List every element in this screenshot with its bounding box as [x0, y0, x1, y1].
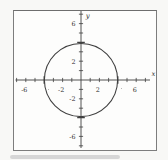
y-tick-label: 2 [71, 58, 75, 66]
y-tick-label: -2 [69, 95, 75, 103]
y-axis-label: y [85, 12, 90, 20]
scan-speck [121, 88, 122, 89]
x-tick-label: -6 [21, 86, 27, 94]
scan-speck [48, 89, 49, 90]
scan-smudge [10, 155, 120, 159]
circle-graph: -6-22662-2-6xy [0, 0, 168, 160]
y-tick-label: 6 [71, 20, 75, 28]
y-tick-label: -6 [69, 133, 75, 141]
x-tick-label: 2 [96, 86, 100, 94]
x-tick-label: -2 [58, 86, 64, 94]
scanned-figure-page: -6-22662-2-6xy [0, 0, 168, 160]
x-tick-label: 6 [133, 86, 137, 94]
x-axis-label: x [152, 70, 156, 78]
